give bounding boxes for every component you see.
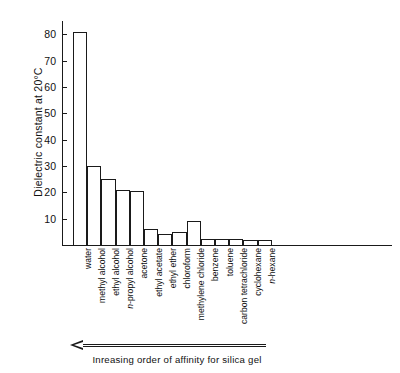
x-label-acetone: acetone — [140, 248, 149, 279]
bar-carbon-tetrachloride — [229, 239, 243, 245]
x-label-chloroform: chloroform — [183, 248, 192, 289]
plot-area: 1020304050607080 — [62, 16, 392, 246]
y-tick-label-40: 40 — [30, 135, 56, 145]
bar-ethyl-alcohol — [101, 179, 115, 245]
y-tick-label-80: 80 — [30, 29, 56, 39]
y-tick-label-text: 70 — [30, 56, 56, 66]
x-label-n-propyl-alcohol: n-propyl alcohol — [126, 248, 135, 309]
bar-water — [73, 32, 87, 245]
x-axis-category-labels: watermethyl alcoholethyl alcoholn-propyl… — [62, 248, 392, 334]
bar-n-propyl-alcohol — [116, 190, 130, 245]
bar-ethyl-ether — [158, 234, 172, 245]
bar-n-hexane — [258, 240, 272, 245]
y-tick-label-70: 70 — [30, 56, 56, 66]
bar-toluene — [215, 239, 229, 245]
x-label-benzene: benzene — [211, 248, 220, 281]
affinity-caption: Inreasing order of affinity for silica g… — [62, 354, 292, 365]
x-label-water: water — [84, 248, 93, 269]
y-tick-label-text: 10 — [30, 214, 56, 224]
bar-cyclohexane — [243, 240, 257, 245]
bar-methylene-chloride — [187, 221, 201, 245]
bar-acetone — [130, 191, 144, 245]
y-tick-label-text: 20 — [30, 187, 56, 197]
y-tick-label-text: 80 — [30, 29, 56, 39]
y-tick-label-text: 30 — [30, 161, 56, 171]
y-tick-label-text: 60 — [30, 82, 56, 92]
x-label-methyl-alcohol: methyl alcohol — [98, 248, 107, 303]
y-tick-label-30: 30 — [30, 161, 56, 171]
y-axis-title: Dielectric constant at 20°C — [32, 17, 44, 247]
y-tick-label-20: 20 — [30, 187, 56, 197]
x-label-ethyl-acetate: ethyl acetate — [155, 248, 164, 297]
y-tick-label-60: 60 — [30, 82, 56, 92]
bar-series — [62, 16, 392, 246]
bar-methyl-alcohol — [87, 166, 101, 245]
arrow-head-inner-icon — [74, 342, 83, 348]
y-tick-label-text: 50 — [30, 108, 56, 118]
x-label-ethyl-ether: ethyl ether — [169, 248, 178, 288]
x-label-toluene: toluene — [226, 248, 235, 276]
y-tick-label-10: 10 — [30, 214, 56, 224]
x-label-methylene-chloride: methylene chloride — [197, 248, 206, 320]
bar-benzene — [201, 239, 215, 245]
affinity-annotation: Inreasing order of affinity for silica g… — [62, 338, 392, 370]
bar-ethyl-acetate — [144, 229, 158, 245]
x-label-carbon-tetrachloride: carbon tetrachloride — [240, 248, 249, 324]
x-label-n-hexane: n-hexane — [268, 248, 277, 284]
x-label-cyclohexane: cyclohexane — [254, 248, 263, 296]
x-label-ethyl-alcohol: ethyl alcohol — [112, 248, 121, 296]
bar-chloroform — [172, 232, 186, 245]
y-tick-label-50: 50 — [30, 108, 56, 118]
y-tick-label-text: 40 — [30, 135, 56, 145]
arrow-shaft-icon — [82, 344, 266, 347]
chart-figure: Dielectric constant at 20°C 102030405060… — [0, 0, 400, 373]
